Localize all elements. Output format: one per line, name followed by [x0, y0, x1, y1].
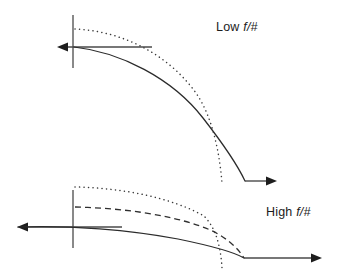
panel-high-f-number [17, 187, 322, 268]
label-high-f-number-italic: f/# [296, 205, 311, 219]
sagittal-curve-bottom [18, 227, 244, 258]
right-arrow-head-bottom [311, 254, 322, 263]
right-arrow-head-top [266, 177, 277, 186]
label-high-f-number-text: High [266, 205, 296, 219]
sagittal-curve-top [74, 47, 245, 181]
label-low-f-number: Low f/# [216, 20, 258, 34]
tangential-curve-top [75, 29, 222, 183]
label-low-f-number-italic: f/# [243, 20, 258, 34]
field-curvature-diagram: Low f/# High f/# [0, 0, 340, 279]
panel-low-f-number [57, 15, 277, 186]
diagram-canvas [0, 0, 340, 279]
label-high-f-number: High f/# [266, 205, 311, 219]
median-curve-bottom [75, 207, 244, 258]
label-low-f-number-text: Low [216, 20, 243, 34]
left-arrow-head-top [57, 43, 68, 52]
